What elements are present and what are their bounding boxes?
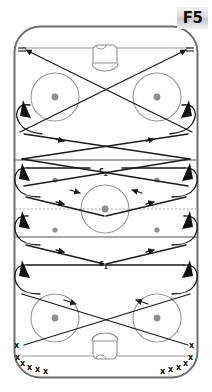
queue-mark: x bbox=[188, 353, 194, 362]
faceoff-dot-bottom-right bbox=[154, 315, 161, 322]
queue-mark: x bbox=[176, 363, 182, 372]
rink-surface bbox=[15, 27, 198, 378]
label-c1: c1 bbox=[99, 259, 108, 270]
queue-mark: x bbox=[160, 367, 166, 376]
label-c2-sub: 2 bbox=[104, 170, 108, 177]
label-c1-sub: 1 bbox=[104, 263, 108, 270]
faceoff-dot-top-left bbox=[52, 94, 59, 101]
neutral-dot-lower-left bbox=[52, 227, 57, 232]
queue-mark: x bbox=[43, 367, 49, 376]
rink-svg: x x x x x x x x x x x x bbox=[0, 0, 212, 392]
queue-mark: x bbox=[183, 359, 189, 368]
queue-mark: x bbox=[168, 365, 174, 374]
faceoff-dot-bottom-left bbox=[52, 315, 59, 322]
drill-diagram-canvas: x x x x x x x x x x x x c2 c1 F5 bbox=[0, 0, 212, 392]
faceoff-dot-center bbox=[102, 206, 109, 213]
neutral-dot-lower-right bbox=[154, 227, 159, 232]
drill-badge-label: F5 bbox=[183, 11, 203, 26]
queue-mark: x bbox=[189, 341, 195, 350]
queue-mark: x bbox=[35, 365, 41, 374]
queue-mark: x bbox=[20, 359, 26, 368]
faceoff-dot-top-right bbox=[154, 94, 161, 101]
label-c2: c2 bbox=[99, 166, 108, 177]
queue-mark: x bbox=[27, 363, 33, 372]
queue-mark: x bbox=[14, 341, 20, 350]
drill-badge: F5 bbox=[177, 7, 208, 29]
